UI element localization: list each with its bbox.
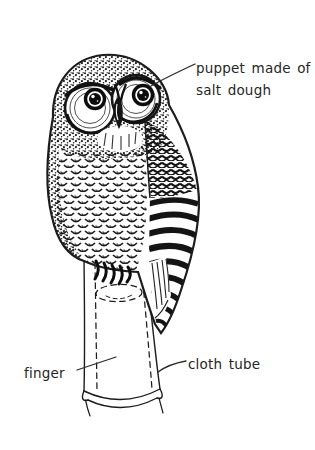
leader-line-puppet — [151, 64, 195, 86]
owl-left-eye — [86, 90, 105, 109]
tube-bottom-rim — [82, 389, 163, 416]
label-puppet-line2: salt dough — [196, 79, 311, 101]
owl-right-eye — [134, 86, 153, 105]
label-puppet-made-of-salt-dough: puppet made of salt dough — [196, 57, 311, 101]
leader-line-cloth-tube — [158, 361, 186, 372]
owl-chest-feathers — [55, 143, 147, 271]
owl-illustration — [48, 55, 199, 333]
label-puppet-line1: puppet made of — [196, 57, 311, 79]
label-finger: finger — [24, 362, 65, 384]
owl-chin — [97, 126, 143, 152]
label-cloth-tube: cloth tube — [188, 353, 260, 375]
tube-left-edge — [84, 258, 85, 391]
fingertip-dashed-ellipse — [96, 284, 143, 303]
illustration-canvas: puppet made of salt dough finger cloth t… — [0, 0, 315, 450]
